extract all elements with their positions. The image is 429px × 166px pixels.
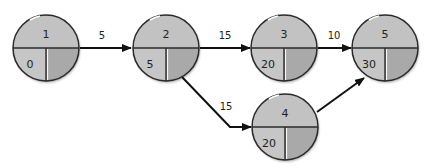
edge-label-3-5: 10 [328, 30, 341, 41]
network-diagram: 5 15 10 15 [0, 0, 429, 166]
node-2[interactable]: 2 5 [133, 15, 199, 81]
node-3[interactable]: 3 20 [251, 15, 317, 81]
node-id: 5 [382, 28, 389, 41]
edge-3-to-5: 10 [318, 30, 351, 48]
edge-1-to-2: 5 [80, 30, 131, 48]
node-value: 20 [261, 58, 275, 71]
nodes: 1 0 2 5 3 [13, 15, 418, 160]
node-1[interactable]: 1 0 [13, 15, 79, 81]
node-id: 3 [281, 28, 288, 41]
edge-4-to-5 [317, 78, 364, 112]
edge-2-to-3: 15 [200, 30, 250, 48]
edge-label-2-3: 15 [219, 30, 232, 41]
arrow-2-4 [182, 77, 251, 127]
node-5[interactable]: 5 30 [352, 15, 418, 81]
node-4[interactable]: 4 20 [252, 94, 318, 160]
node-value: 30 [362, 58, 376, 71]
node-value: 5 [147, 58, 154, 71]
arrow-4-5 [317, 78, 364, 112]
edge-2-to-4: 15 [182, 77, 251, 127]
edge-label-2-4: 15 [220, 101, 233, 112]
node-value: 20 [262, 137, 276, 150]
node-value: 0 [27, 58, 34, 71]
node-id: 2 [163, 28, 170, 41]
edge-label-1-2: 5 [99, 30, 105, 41]
node-id: 4 [282, 107, 289, 120]
edges: 5 15 10 15 [80, 30, 364, 127]
node-id: 1 [43, 28, 50, 41]
